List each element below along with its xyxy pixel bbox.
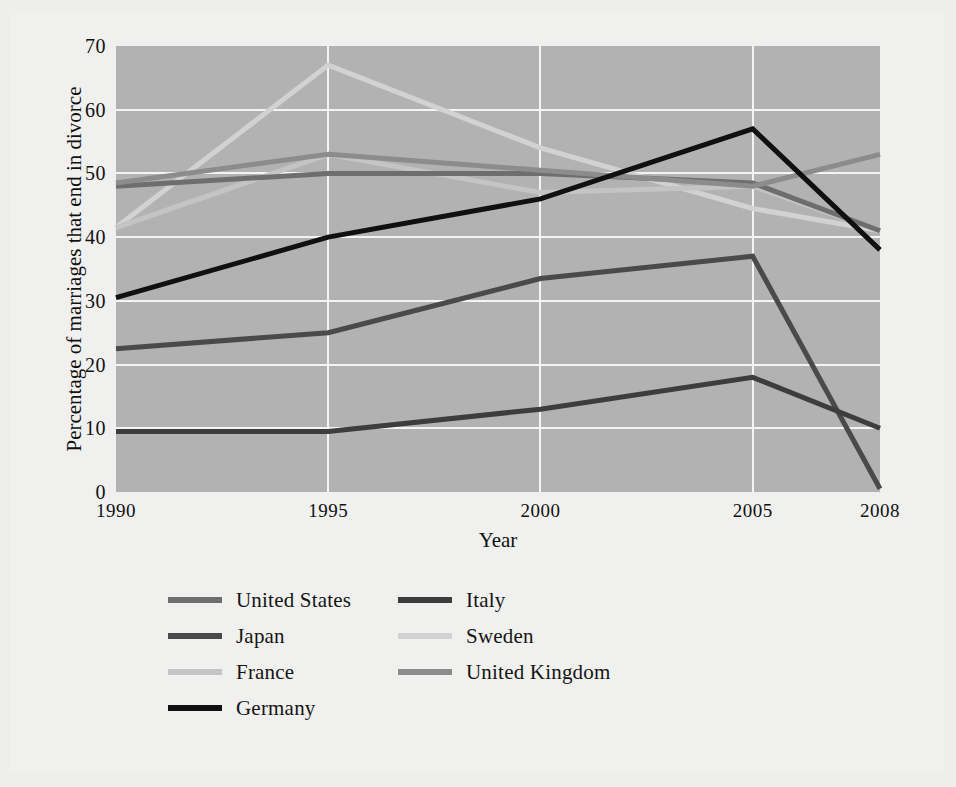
series-line-germany — [116, 129, 880, 298]
y-tick-0: 0 — [96, 482, 107, 502]
legend-item-italy[interactable]: Italy — [398, 588, 628, 613]
legend-row: FranceUnited Kingdom — [168, 654, 628, 690]
y-axis-label: Percentage of marriages that end in divo… — [62, 46, 87, 492]
y-tick-10: 10 — [85, 418, 106, 438]
y-tick-50: 50 — [85, 163, 106, 183]
series-line-italy — [116, 377, 880, 431]
legend-label-japan: Japan — [236, 624, 285, 649]
legend-swatch-france — [168, 669, 222, 675]
x-axis-label: Year — [116, 528, 880, 553]
legend-row: United StatesItaly — [168, 582, 628, 618]
legend-label-france: France — [236, 660, 294, 685]
y-tick-60: 60 — [85, 100, 106, 120]
legend-label-united-states: United States — [236, 588, 351, 613]
series-line-japan — [116, 256, 880, 489]
legend-swatch-italy — [398, 597, 452, 603]
legend-label-sweden: Sweden — [466, 624, 534, 649]
legend-swatch-united-states — [168, 597, 222, 603]
chart-legend: United StatesItalyJapanSwedenFranceUnite… — [168, 582, 628, 726]
legend-item-france[interactable]: France — [168, 660, 398, 685]
legend-item-united-states[interactable]: United States — [168, 588, 398, 613]
legend-row: JapanSweden — [168, 618, 628, 654]
legend-item-sweden[interactable]: Sweden — [398, 624, 628, 649]
legend-swatch-sweden — [398, 633, 452, 639]
plot-area — [116, 46, 880, 492]
legend-swatch-japan — [168, 633, 222, 639]
legend-label-united-kingdom: United Kingdom — [466, 660, 611, 685]
x-tick-1990: 1990 — [96, 500, 136, 522]
series-lines — [116, 46, 880, 492]
legend-row: Germany — [168, 690, 628, 726]
legend-label-germany: Germany — [236, 696, 316, 721]
legend-item-united-kingdom[interactable]: United Kingdom — [398, 660, 628, 685]
legend-item-germany[interactable]: Germany — [168, 696, 398, 721]
legend-label-italy: Italy — [466, 588, 505, 613]
x-tick-2005: 2005 — [733, 500, 773, 522]
legend-swatch-germany — [168, 705, 222, 711]
y-tick-30: 30 — [85, 291, 106, 311]
y-tick-20: 20 — [85, 355, 106, 375]
legend-item-japan[interactable]: Japan — [168, 624, 398, 649]
x-tick-2000: 2000 — [520, 500, 560, 522]
legend-swatch-united-kingdom — [398, 669, 452, 675]
y-tick-70: 70 — [85, 36, 106, 56]
divorce-rate-line-chart: Percentage of marriages that end in divo… — [0, 0, 956, 787]
y-tick-40: 40 — [85, 227, 106, 247]
x-tick-2008: 2008 — [860, 500, 900, 522]
x-tick-1995: 1995 — [308, 500, 348, 522]
